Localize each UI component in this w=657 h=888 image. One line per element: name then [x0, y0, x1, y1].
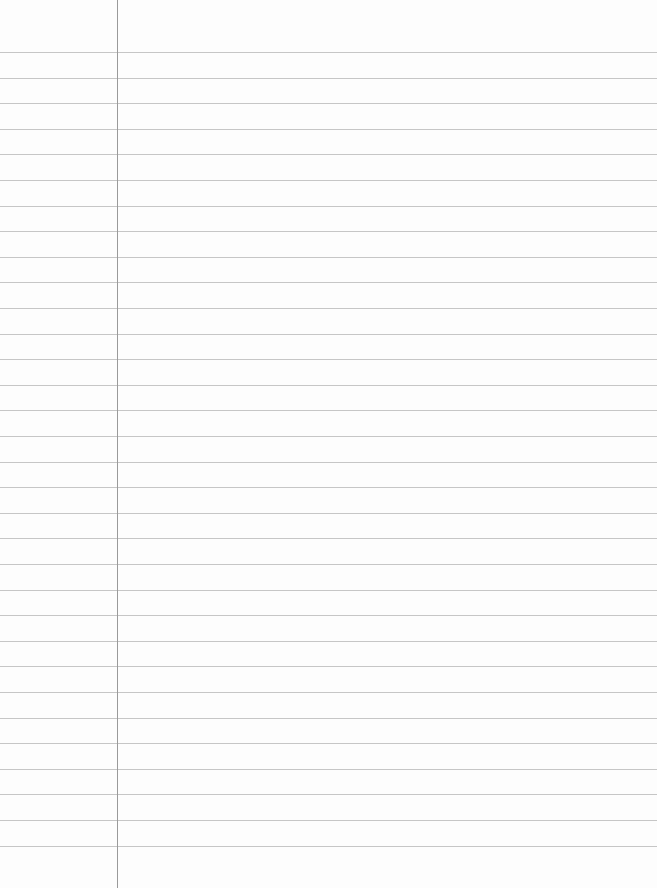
ruled-line	[0, 206, 657, 207]
ruled-line	[0, 52, 657, 53]
ruled-line	[0, 513, 657, 514]
ruled-line	[0, 846, 657, 847]
ruled-line	[0, 334, 657, 335]
ruled-line	[0, 666, 657, 667]
ruled-line	[0, 615, 657, 616]
ruled-line	[0, 257, 657, 258]
ruled-line	[0, 769, 657, 770]
ruled-line	[0, 410, 657, 411]
ruled-line	[0, 78, 657, 79]
ruled-line	[0, 103, 657, 104]
ruled-line	[0, 743, 657, 744]
ruled-line	[0, 436, 657, 437]
ruled-line	[0, 564, 657, 565]
ruled-line	[0, 282, 657, 283]
ruled-line	[0, 538, 657, 539]
ruled-line	[0, 794, 657, 795]
ruled-line	[0, 385, 657, 386]
ruled-line	[0, 462, 657, 463]
ruled-line	[0, 154, 657, 155]
ruled-line	[0, 718, 657, 719]
ruled-line	[0, 487, 657, 488]
ruled-line	[0, 820, 657, 821]
ruled-line	[0, 692, 657, 693]
ruled-line	[0, 308, 657, 309]
margin-line	[117, 0, 118, 888]
ruled-line	[0, 590, 657, 591]
ruled-line	[0, 641, 657, 642]
ruled-line	[0, 180, 657, 181]
ruled-line	[0, 231, 657, 232]
lined-paper	[0, 0, 657, 888]
ruled-line	[0, 129, 657, 130]
ruled-line	[0, 359, 657, 360]
